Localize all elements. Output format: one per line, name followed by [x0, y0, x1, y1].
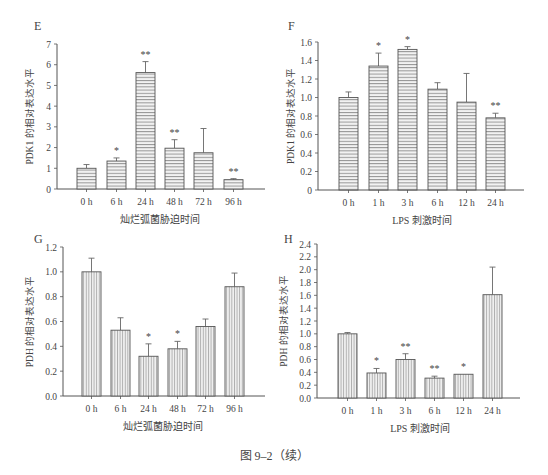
y-tick-label: 0.6: [300, 130, 312, 140]
significance-marker: *: [374, 355, 379, 366]
x-tick-label: 24 h: [484, 406, 501, 416]
bar: [396, 360, 415, 399]
bar-charts-panel-grid: E01234567PDK1 的相对表达水平0 h6 h*24 h**48 h**…: [0, 0, 548, 440]
bar: [454, 374, 473, 398]
y-tick-label: 1.2: [300, 75, 312, 85]
x-tick-label: 24 h: [140, 404, 157, 414]
panel-label: F: [288, 19, 295, 33]
y-tick-label: 0.4: [300, 149, 312, 159]
bar: [139, 356, 158, 396]
significance-marker: **: [229, 166, 239, 177]
bar: [224, 180, 243, 189]
significance-marker: *: [114, 145, 119, 156]
bar: [428, 89, 447, 190]
significance-marker: *: [146, 331, 151, 342]
x-axis-label: 灿烂弧菌胁迫时间: [120, 213, 200, 225]
y-tick-label: 1.0: [300, 93, 312, 103]
x-tick-label: 6 h: [111, 197, 123, 207]
x-tick-label: 48 h: [169, 404, 186, 414]
chart-panel-f: F00.20.40.60.81.01.21.41.6PDK1 的相对表达水平0 …: [285, 19, 524, 226]
x-tick-label: 0 h: [343, 198, 355, 208]
bar: [483, 295, 502, 398]
y-tick-label: 5: [46, 81, 51, 91]
x-tick-label: 0 h: [342, 406, 354, 416]
y-axis-label: PDH 的相对表达水平: [24, 276, 35, 367]
significance-marker: *: [376, 40, 381, 51]
y-tick-label: 1.4: [299, 304, 311, 314]
x-tick-label: 3 h: [402, 198, 414, 208]
y-tick-label: 0.2: [45, 367, 57, 377]
x-tick-label: 6 h: [429, 406, 441, 416]
bar: [225, 287, 244, 396]
significance-marker: *: [461, 361, 466, 372]
figure-caption: 图 9–2（续）: [0, 446, 548, 464]
y-axis-label: PDH 的相对表达水平: [278, 275, 289, 366]
significance-marker: **: [141, 49, 151, 60]
bar: [398, 49, 417, 190]
chart-panel-h: H0.00.20.40.60.81.01.21.41.61.82.02.22.4…: [278, 232, 520, 434]
y-tick-label: 1.6: [300, 38, 312, 48]
x-tick-label: 0 h: [81, 197, 93, 207]
y-tick-label: 4: [46, 102, 51, 112]
x-tick-label: 1 h: [371, 406, 383, 416]
y-tick-label: 0.4: [45, 342, 57, 352]
significance-marker: *: [405, 34, 410, 45]
y-axis-label: PDK1 的相对表达水平: [24, 68, 35, 164]
significance-marker: *: [175, 328, 180, 339]
y-tick-label: 2.2: [299, 252, 311, 262]
y-tick-label: 2.0: [299, 265, 311, 275]
y-tick-label: 2: [46, 143, 51, 153]
y-tick-label: 1.2: [299, 317, 311, 327]
bar: [107, 161, 126, 189]
bar: [425, 378, 444, 398]
y-tick-label: 0.2: [300, 167, 312, 177]
y-tick-label: 1.4: [300, 56, 312, 66]
bar: [369, 66, 388, 190]
y-tick-label: 1.0: [299, 329, 311, 339]
x-tick-label: 72 h: [197, 404, 214, 414]
significance-marker: **: [170, 127, 180, 138]
x-tick-label: 48 h: [166, 197, 183, 207]
x-tick-label: 6 h: [115, 404, 127, 414]
y-tick-label: 1.0: [45, 267, 57, 277]
y-tick-label: 3: [46, 122, 51, 132]
y-tick-label: 0.8: [299, 342, 311, 352]
x-tick-label: 0 h: [86, 404, 98, 414]
x-tick-label: 12 h: [455, 406, 472, 416]
x-axis-label: LPS 刺激时间: [390, 422, 450, 434]
significance-marker: **: [430, 363, 440, 374]
x-tick-label: 1 h: [373, 198, 385, 208]
significance-marker: **: [401, 341, 411, 352]
bar: [338, 334, 357, 398]
y-tick-label: 1.8: [299, 278, 311, 288]
y-tick-label: 1.6: [299, 291, 311, 301]
panel-label: E: [34, 19, 41, 33]
x-tick-label: 6 h: [432, 198, 444, 208]
y-tick-label: 0.6: [299, 355, 311, 365]
bar: [111, 330, 130, 396]
x-axis-label: LPS 刺激时间: [392, 214, 452, 226]
bar: [136, 73, 155, 189]
y-tick-label: 0.6: [45, 317, 57, 327]
x-tick-label: 96 h: [225, 197, 242, 207]
bar: [165, 148, 184, 189]
x-tick-label: 96 h: [226, 404, 243, 414]
bar: [194, 153, 213, 189]
y-axis-label: PDK1 的相对表达水平: [285, 68, 296, 164]
chart-panel-g: G0.00.20.40.60.81.01.2PDH 的相对表达水平0 h6 h2…: [24, 232, 265, 432]
x-tick-label: 24 h: [487, 198, 504, 208]
y-tick-label: 0.4: [299, 368, 311, 378]
y-tick-label: 0.2: [299, 381, 311, 391]
significance-marker: **: [491, 100, 501, 111]
bar: [367, 373, 386, 398]
y-tick-label: 0.0: [299, 394, 311, 404]
bar: [196, 326, 215, 396]
y-tick-label: 0: [46, 185, 51, 195]
y-tick-label: 0.0: [45, 392, 57, 402]
y-tick-label: 0: [307, 186, 312, 196]
bar: [77, 168, 96, 189]
panel-label: G: [34, 232, 43, 246]
bar: [168, 349, 187, 396]
y-tick-label: 2.4: [299, 240, 311, 250]
x-axis-label: 灿烂弧菌胁迫时间: [123, 420, 203, 432]
